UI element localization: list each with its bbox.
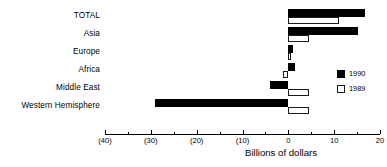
- x-axis-title: Billions of dollars: [245, 147, 317, 159]
- x-axis-tick-minor: [357, 132, 358, 135]
- bar-1989-europe: [288, 53, 290, 61]
- x-axis-tick-major: [105, 130, 106, 134]
- x-axis-tick-label: 0: [286, 136, 290, 145]
- x-axis-line: [105, 134, 380, 135]
- legend-swatch-1990: [337, 70, 345, 78]
- bar-1990-middle-east: [270, 81, 288, 89]
- x-axis-tick-minor: [174, 132, 175, 135]
- x-axis-tick-label: (30): [144, 136, 158, 145]
- chart-container: TOTALAsiaEuropeAfricaMiddle EastWestern …: [0, 0, 387, 167]
- x-axis-tick-minor: [311, 132, 312, 135]
- bar-1990-africa: [288, 63, 295, 71]
- bar-1989-total: [288, 17, 338, 25]
- bar-1989-asia: [288, 35, 309, 43]
- x-axis-tick-major: [288, 130, 289, 134]
- bar-1990-europe: [288, 45, 293, 53]
- plot-area: [0, 0, 387, 127]
- bar-1990-asia: [288, 27, 358, 35]
- x-axis-tick-label: (40): [98, 136, 112, 145]
- x-axis-tick-minor: [220, 132, 221, 135]
- x-axis-tick-major: [197, 130, 198, 134]
- legend-swatch-1989: [337, 85, 345, 93]
- x-axis-tick-label: 20: [376, 136, 384, 145]
- x-axis-tick-minor: [128, 132, 129, 135]
- bar-1989-middle-east: [288, 89, 309, 97]
- x-axis-tick-label: 10: [330, 136, 338, 145]
- legend-label-1990: 1990: [349, 69, 365, 79]
- x-axis-tick-major: [151, 130, 152, 134]
- bar-1989-western-hemisphere: [288, 107, 309, 115]
- bar-1990-western-hemisphere: [155, 99, 288, 107]
- x-axis-tick-major: [334, 130, 335, 134]
- bar-1990-total: [288, 9, 365, 17]
- bar-1989-africa: [283, 71, 289, 79]
- legend-label-1989: 1989: [349, 84, 365, 94]
- x-axis-tick-label: (20): [190, 136, 204, 145]
- x-axis-tick-major: [243, 130, 244, 134]
- x-axis-tick-minor: [265, 132, 266, 135]
- x-axis-tick-label: (10): [236, 136, 250, 145]
- x-axis-tick-major: [380, 130, 381, 134]
